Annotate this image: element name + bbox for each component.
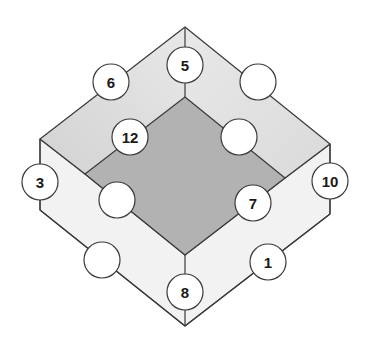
node-label: 10 [322,173,339,190]
node-bottom: 8 [167,274,203,310]
node-inner-top-left: 12 [112,119,148,155]
node-label: 6 [107,74,115,91]
node-label: 7 [249,195,257,212]
node-inner-bottom-left[interactable] [99,182,135,218]
node-label: 5 [181,57,189,74]
empty-circle[interactable] [99,182,135,218]
empty-circle[interactable] [84,242,120,278]
node-outer-bottom-left[interactable] [84,242,120,278]
node-right: 10 [312,163,348,199]
node-top: 5 [167,47,203,83]
node-outer-top-left: 6 [93,64,129,100]
node-label: 3 [36,174,44,191]
node-outer-top-right[interactable] [240,64,276,100]
node-inner-bottom-right: 7 [235,185,271,221]
node-label: 8 [181,284,189,301]
node-inner-top-right[interactable] [221,119,257,155]
node-outer-bottom-right: 1 [250,244,286,280]
empty-circle[interactable] [221,119,257,155]
node-label: 1 [264,254,272,271]
diagram-canvas: 6512310718 [0,0,371,348]
empty-circle[interactable] [240,64,276,100]
node-left: 3 [22,164,58,200]
node-label: 12 [122,129,139,146]
isometric-frame-diagram: 6512310718 [0,0,371,348]
